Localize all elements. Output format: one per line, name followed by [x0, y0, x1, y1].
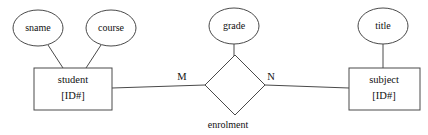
entity-label-student: student — [58, 74, 88, 85]
cardinality-label-m: M — [177, 71, 187, 82]
relationship-label-enrolment: enrolment — [208, 119, 249, 130]
er-diagram-svg: sname course grade title student [ID#] s… — [0, 0, 428, 135]
entity-node-subject[interactable]: subject [ID#] — [349, 68, 420, 110]
edge-sname-to-student — [48, 45, 63, 68]
entity-key-student: [ID#] — [61, 90, 84, 101]
attribute-node-grade[interactable]: grade — [209, 8, 259, 44]
diamond-shape — [205, 55, 265, 115]
edge-student-to-enrolment — [112, 85, 205, 88]
edge-course-to-student — [86, 45, 101, 68]
entity-label-subject: subject — [369, 74, 399, 85]
attribute-node-title[interactable]: title — [358, 8, 408, 44]
entity-key-subject: [ID#] — [372, 90, 395, 101]
cardinality-label-n: N — [267, 71, 275, 82]
attribute-label-grade: grade — [223, 20, 246, 31]
attribute-label-course: course — [98, 22, 125, 33]
er-diagram-canvas: sname course grade title student [ID#] s… — [0, 0, 428, 135]
entity-node-student[interactable]: student [ID#] — [34, 68, 112, 110]
attribute-node-course[interactable]: course — [86, 10, 136, 46]
attribute-label-title: title — [375, 20, 391, 31]
attribute-label-sname: sname — [25, 22, 51, 33]
relationship-node-enrolment[interactable] — [205, 55, 265, 115]
edge-enrolment-to-subject — [265, 85, 349, 88]
attribute-node-sname[interactable]: sname — [13, 10, 63, 46]
